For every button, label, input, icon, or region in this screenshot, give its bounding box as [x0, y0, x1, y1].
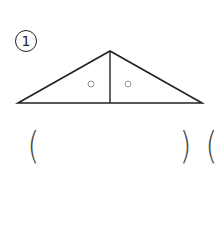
answer-close-paren: ) — [179, 126, 191, 164]
answer-blank[interactable] — [42, 128, 176, 162]
angle-mark-left-icon — [88, 81, 94, 87]
answer-open-paren: ( — [27, 126, 39, 164]
next-answer-open-paren: ( — [205, 126, 215, 164]
angle-mark-right-icon — [125, 81, 131, 87]
